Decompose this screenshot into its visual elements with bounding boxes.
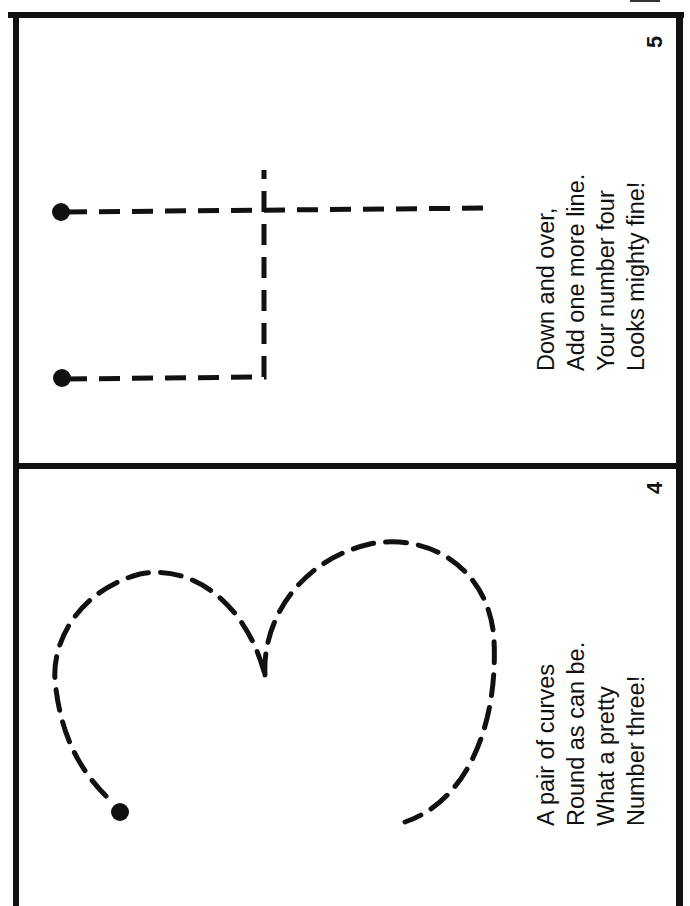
- verse-line: Round as can be.: [565, 642, 589, 826]
- verse-line: Number three!: [625, 676, 649, 826]
- verse-line: Looks mighty fine!: [625, 182, 649, 371]
- verse-line: Down and over,: [535, 208, 559, 371]
- verse-line: A pair of curves: [535, 664, 559, 826]
- start-dot-icon: [52, 203, 70, 221]
- number-three-tracing: [55, 542, 495, 822]
- page-number: 4: [642, 482, 668, 494]
- verse-line: Add one more line.: [565, 174, 589, 371]
- three-upper-curve: [55, 572, 265, 796]
- start-dot-icon: [111, 803, 129, 821]
- page-number: 5: [642, 36, 668, 48]
- verse-line: What a pretty: [595, 686, 619, 826]
- three-lower-curve: [265, 542, 495, 822]
- four-lower-stroke: [66, 170, 264, 379]
- four-upper-stroke: [66, 208, 492, 212]
- number-four-tracing: [66, 170, 492, 379]
- verse-line: Your number four: [595, 190, 619, 371]
- start-dot-icon: [53, 369, 71, 387]
